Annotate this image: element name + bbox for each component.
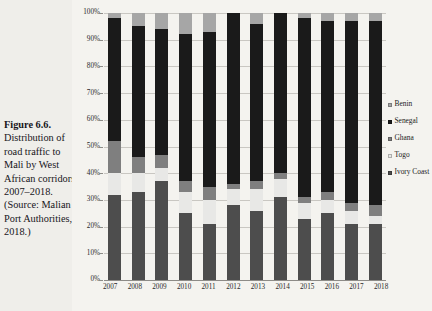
bar-segment	[108, 173, 121, 194]
y-axis-tick-label: 100%	[83, 9, 100, 16]
bar-segment	[227, 13, 240, 184]
plot-region	[104, 13, 386, 280]
bar-segment	[203, 32, 216, 187]
bar-segment	[298, 219, 311, 280]
x-axis-tick-label: 2010	[177, 283, 190, 299]
bar-segment	[108, 195, 121, 280]
bar-segment	[155, 13, 168, 29]
figure-number: Figure 6.6.	[4, 119, 51, 130]
x-axis-tick-label: 2007	[103, 283, 116, 299]
x-axis-tick-label: 2014	[275, 283, 288, 299]
bar-column	[369, 13, 382, 280]
legend-item: Benin	[388, 100, 432, 108]
bar-column	[321, 13, 334, 280]
bar-segment	[369, 205, 382, 216]
bar-column	[250, 13, 263, 280]
legend-label: Ghana	[395, 134, 414, 142]
legend-label: Senegal	[395, 117, 418, 125]
bar-segment	[345, 211, 358, 224]
bar-segment	[179, 34, 192, 181]
bar-column	[345, 13, 358, 280]
bar-column	[274, 13, 287, 280]
bar-segment	[250, 189, 263, 210]
y-axis-tick	[99, 93, 103, 94]
bar-segment	[321, 200, 334, 213]
y-axis-tick	[99, 40, 103, 41]
legend-item: Senegal	[388, 117, 432, 125]
chart-area: 0%10%20%30%40%50%60%70%80%90%100% 200720…	[72, 0, 432, 311]
bar-segment	[132, 26, 145, 157]
bar-segment	[298, 203, 311, 219]
x-axis-tick-label: 2012	[226, 283, 239, 299]
bar-segment	[155, 168, 168, 181]
bar-segment	[179, 192, 192, 213]
bar-column	[108, 13, 121, 280]
bar-segment	[155, 155, 168, 168]
x-axis-tick-label: 2018	[374, 283, 387, 299]
bar-segment	[108, 141, 121, 173]
bar-segment	[179, 181, 192, 192]
x-axis: 2007200820092010201120122013201420152016…	[104, 283, 386, 299]
legend-item: Togo	[388, 151, 432, 159]
y-axis-tick	[99, 147, 103, 148]
bar-segment	[369, 224, 382, 280]
bar-group	[104, 13, 386, 280]
y-axis-tick	[99, 200, 103, 201]
bar-segment	[132, 173, 145, 192]
bar-segment	[250, 181, 263, 189]
legend-label: Ivory Coast	[395, 168, 430, 176]
chart-legend: BeninSenegalGhanaTogoIvory Coast	[388, 100, 432, 185]
bar-segment	[203, 187, 216, 200]
y-axis-tick	[99, 13, 103, 14]
bar-segment	[179, 213, 192, 280]
figure-caption-text: Distribution of road traffic to Mali by …	[4, 132, 78, 237]
bar-segment	[250, 24, 263, 182]
bar-segment	[345, 21, 358, 203]
figure-panel: 0%10%20%30%40%50%60%70%80%90%100% 200720…	[72, 0, 432, 311]
bar-segment	[155, 181, 168, 280]
gridline	[104, 280, 386, 281]
bar-segment	[108, 18, 121, 141]
legend-item: Ghana	[388, 134, 432, 142]
bar-segment	[321, 192, 334, 200]
bar-segment	[250, 13, 263, 24]
y-axis-tick	[99, 66, 103, 67]
y-axis: 0%10%20%30%40%50%60%70%80%90%100%	[72, 0, 104, 295]
bar-segment	[321, 21, 334, 192]
bar-segment	[345, 224, 358, 280]
bar-column	[203, 13, 216, 280]
y-axis-tick	[99, 120, 103, 121]
bar-segment	[132, 157, 145, 173]
bar-segment	[321, 213, 334, 280]
x-axis-tick-label: 2011	[202, 283, 215, 299]
legend-item: Ivory Coast	[388, 168, 432, 176]
bar-segment	[155, 29, 168, 154]
bar-column	[298, 13, 311, 280]
y-axis-tick	[99, 227, 103, 228]
x-axis-tick-label: 2017	[349, 283, 362, 299]
bar-segment	[369, 216, 382, 224]
bar-segment	[203, 224, 216, 280]
bar-segment	[179, 13, 192, 34]
bar-segment	[250, 211, 263, 280]
legend-label: Togo	[395, 151, 410, 159]
bar-segment	[227, 205, 240, 280]
bar-segment	[369, 21, 382, 205]
x-axis-tick-label: 2009	[152, 283, 165, 299]
bar-segment	[274, 179, 287, 198]
x-axis-tick-label: 2015	[300, 283, 313, 299]
legend-swatch	[388, 154, 392, 158]
bar-column	[132, 13, 145, 280]
bar-column	[227, 13, 240, 280]
bar-segment	[321, 13, 334, 21]
bar-segment	[274, 13, 287, 173]
x-axis-tick-label: 2013	[251, 283, 264, 299]
bar-column	[155, 13, 168, 280]
legend-swatch	[388, 120, 392, 124]
bar-segment	[274, 197, 287, 280]
y-axis-tick	[99, 173, 103, 174]
x-axis-tick-label: 2016	[325, 283, 338, 299]
bar-segment	[345, 203, 358, 211]
bar-segment	[298, 18, 311, 197]
bar-segment	[345, 13, 358, 21]
